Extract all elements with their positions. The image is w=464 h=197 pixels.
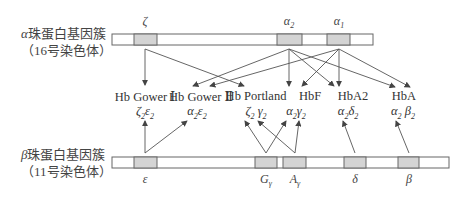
alpha-chromosome-bar [112, 34, 373, 45]
gene-box-zeta [134, 34, 157, 45]
alpha-symbol: α [21, 26, 28, 41]
hb-name-portland: Hb Portland [226, 89, 287, 104]
gene-box-alpha2 [277, 34, 302, 45]
alpha-cluster-title: 珠蛋白基因簇 [28, 26, 106, 41]
hb-name-hbf: HbF [299, 89, 321, 104]
hb-name-hba2: HbA2 [338, 89, 369, 104]
beta-chromosome-bar [112, 157, 449, 168]
beta-cluster-label: β珠蛋白基因簇 （11号染色体） [21, 146, 112, 180]
gene-label-alpha2: α2 [284, 14, 294, 30]
hb-formula-hba2: α2δ2 [338, 104, 358, 121]
alpha-chromosome-note: （16号染色体） [21, 43, 112, 58]
gene-box-G-gamma [255, 157, 277, 168]
hb-formula-hbf: α2γ2 [286, 104, 306, 121]
hb-formula-gower-1: ζ2ε2 [136, 104, 154, 121]
hb-name-hba: HbA [392, 89, 416, 104]
hb-name-gower-2: Hb Gower Ⅱ [169, 89, 233, 105]
gene-box-A-gamma [283, 157, 306, 168]
gene-box-alpha1 [327, 34, 350, 45]
alpha-arrows [145, 49, 410, 87]
alpha-cluster-label: α珠蛋白基因簇 （16号染色体） [21, 25, 112, 59]
beta-chromosome-note: （11号染色体） [21, 164, 112, 179]
hb-formula-hba: α2 β2 [391, 104, 415, 121]
gene-label-G-gamma: Gγ [260, 172, 272, 188]
gene-label-A-gamma: Aγ [290, 172, 301, 188]
hb-name-gower-1: Hb Gower Ⅰ [115, 89, 175, 105]
gene-label-alpha1: α1 [334, 14, 344, 30]
gene-label-beta: β [406, 172, 412, 188]
beta-cluster-title: 珠蛋白基因簇 [27, 147, 105, 162]
gene-box-epsilon [134, 157, 157, 168]
gene-box-delta [344, 157, 366, 168]
hb-formula-gower-2: α2ε2 [187, 104, 207, 121]
hb-formula-portland: ζ2 γ2 [245, 104, 266, 121]
gene-box-beta [398, 157, 419, 168]
gene-label-delta: δ [352, 172, 358, 188]
gene-label-zeta: ζ [143, 14, 148, 30]
gene-label-epsilon: ε [143, 172, 148, 188]
beta-arrows [145, 121, 409, 153]
